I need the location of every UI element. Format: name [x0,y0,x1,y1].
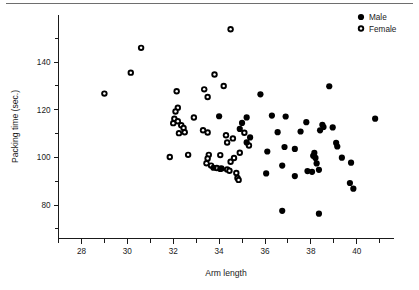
data-point-female-hole [183,131,186,134]
data-point-male [239,120,245,126]
data-point-male [330,124,336,130]
data-point-female-hole [239,151,242,154]
data-point-male [244,114,250,120]
data-point-female-hole [202,129,205,132]
data-point-male [339,155,345,161]
data-point-female-hole [193,116,196,119]
data-point-male [217,166,223,172]
data-point-female-hole [187,154,190,157]
data-point-male [317,127,323,133]
data-point-male [216,113,222,119]
x-tick-label: 40 [352,247,362,256]
data-point-male [281,144,287,150]
data-point-male [263,170,269,176]
data-point-male [247,134,253,140]
y-tick-label: 80 [41,201,51,210]
y-tick-label: 120 [37,106,51,115]
data-point-female-hole [229,28,232,31]
data-point-male [237,126,243,132]
data-point-male [372,116,378,122]
data-point-female-hole [228,170,231,173]
data-point-female-hole [222,85,225,88]
y-axis-title: Packing time (sec.) [10,90,20,163]
data-point-male [316,211,322,217]
data-point-male [347,180,353,186]
x-tick-label: 38 [306,247,316,256]
data-point-male [309,169,315,175]
data-point-female-hole [182,127,185,129]
data-point-female-hole [205,162,208,165]
data-point-female-hole [233,157,236,160]
series-male [210,83,378,217]
y-tick-label: 140 [37,58,51,67]
axis-labels-group: 2830323436384080100120140Arm lengthPacki… [10,58,362,278]
data-point-male [334,143,340,149]
legend-marker-female-hole [360,27,363,30]
data-point-female-hole [226,141,229,144]
data-point-male [314,160,320,166]
data-point-male [283,113,289,119]
data-point-female-hole [140,47,143,50]
x-tick-label: 30 [123,247,133,256]
y-tick-label: 100 [37,153,51,162]
data-point-female-hole [177,120,180,123]
data-point-female-hole [213,73,216,76]
data-point-female-hole [243,131,246,134]
data-point-female-hole [225,134,228,137]
data-point-female-hole [219,154,222,157]
x-tick-label: 34 [215,247,225,256]
data-point-female-hole [130,71,133,74]
data-point-female-hole [206,157,209,160]
data-point-female-hole [206,131,209,134]
data-point-male [316,167,322,173]
data-points-group [101,26,378,217]
x-tick-label: 36 [260,247,270,256]
data-point-female-hole [174,110,177,113]
data-point-male [297,128,303,134]
scatter-plot-figure: 2830323436384080100120140Arm lengthPacki… [0,0,419,290]
x-axis-title: Arm length [205,268,247,278]
x-tick-label: 28 [77,247,87,256]
data-point-female-hole [229,161,232,164]
legend-group: MaleFemale [358,13,397,34]
data-point-female-hole [235,172,238,175]
plot-canvas: 2830323436384080100120140Arm lengthPacki… [0,0,419,290]
x-tick-label: 32 [169,247,179,256]
axis-group [54,15,394,244]
data-point-male [269,112,275,118]
data-point-male [348,160,354,166]
data-point-female-hole [103,92,106,95]
data-point-female-hole [206,96,209,99]
data-point-female-hole [178,132,181,135]
data-point-female-hole [169,156,172,159]
data-point-male [292,146,298,152]
data-point-male [350,186,356,192]
data-point-male [312,155,318,161]
data-point-female-hole [172,122,175,125]
legend-marker-male [358,14,364,20]
data-point-female-hole [177,106,180,109]
data-point-male [264,148,270,154]
data-point-male [257,91,263,97]
legend-label-female: Female [369,25,397,34]
data-point-male [292,173,298,179]
data-point-female-hole [175,90,178,93]
data-point-male [244,139,250,145]
data-point-male [279,162,285,168]
data-point-male [326,83,332,89]
series-female [101,26,252,183]
data-point-male [275,129,281,135]
data-point-male [303,119,309,125]
legend-label-male: Male [369,13,387,22]
data-point-male [210,165,216,171]
data-point-female-hole [237,179,240,182]
data-point-female-hole [232,137,235,140]
data-point-male [279,208,285,214]
data-point-female-hole [203,88,206,91]
